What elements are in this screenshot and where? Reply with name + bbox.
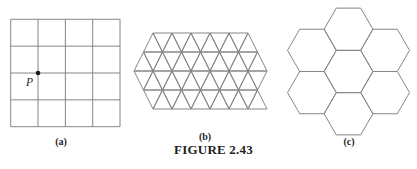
- figure-caption: FIGURE 2.43: [133, 144, 294, 156]
- triangle-tessellation-figure: [134, 33, 267, 109]
- figure-2-43: P (a) (b) (c) FIGURE 2.43: [0, 0, 417, 169]
- panel-b-label: (b): [175, 132, 235, 142]
- point-p-dot: [36, 71, 41, 76]
- panel-c-label: (c): [319, 137, 379, 147]
- hexagon-tessellation-figure: [288, 8, 410, 135]
- square-grid-figure: [11, 19, 120, 126]
- point-p-label: P: [26, 77, 33, 88]
- panel-a-label: (a): [31, 137, 91, 147]
